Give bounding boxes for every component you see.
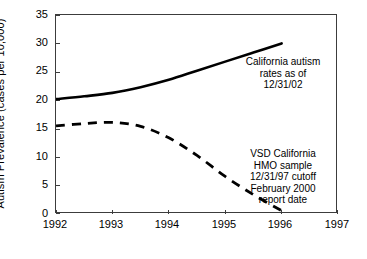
x-tick-label-1996: 1996 [258,219,302,230]
annotation-california-line-2: rates as of [235,68,331,80]
autism-prevalence-chart: Autism Prevalence (cases per 10,000) 35 … [0,0,367,259]
annotation-vsd-hmo-sample: VSD California HMO sample 12/31/97 cutof… [235,148,331,206]
x-axis-ticks [57,210,338,214]
x-tick-label-1992: 1992 [33,219,77,230]
annotation-vsd-line-3: 12/31/97 cutoff [235,171,331,183]
y-tick-label-35: 35 [20,9,48,20]
annotation-vsd-line-1: VSD California [235,148,331,160]
y-axis-title: Autism Prevalence (cases per 10,000) [0,14,9,213]
annotation-vsd-line-4: February 2000 [235,183,331,195]
annotation-vsd-line-5: report date [235,194,331,206]
x-tick-label-1994: 1994 [145,219,189,230]
y-tick-label-25: 25 [20,65,48,76]
y-tick-label-15: 15 [20,122,48,133]
y-axis-ticks [56,16,60,214]
y-tick-label-20: 20 [20,94,48,105]
annotation-california-line-3: 12/31/02 [235,79,331,91]
y-tick-label-10: 10 [20,151,48,162]
x-tick-label-1993: 1993 [89,219,133,230]
y-tick-label-5: 5 [20,179,48,190]
y-tick-label-30: 30 [20,37,48,48]
annotation-california-autism-rates: California autism rates as of 12/31/02 [235,56,331,91]
annotation-vsd-line-2: HMO sample [235,160,331,172]
annotation-california-line-1: California autism [235,56,331,68]
x-tick-label-1997: 1997 [315,219,359,230]
x-tick-label-1995: 1995 [202,219,246,230]
